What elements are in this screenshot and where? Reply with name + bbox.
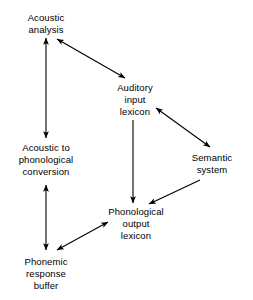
node-label-line: Phonological <box>108 206 164 218</box>
node-label-line: Semantic <box>192 152 232 164</box>
node-label-line: analysis <box>28 24 65 36</box>
node-label-line: buffer <box>24 280 67 292</box>
diagram-canvas: AcousticanalysisAuditoryinputlexiconAcou… <box>0 0 253 300</box>
node-phonological-output-lexicon: Phonologicaloutputlexicon <box>108 206 164 242</box>
node-label-line: system <box>192 164 232 176</box>
node-label-line: lexicon <box>108 230 164 242</box>
arrow-auditory-input-lexicon--semantic-system <box>156 108 210 147</box>
node-label-line: lexicon <box>117 106 153 118</box>
node-label-line: input <box>117 94 153 106</box>
node-label-line: Acoustic <box>28 12 65 24</box>
node-label-line: phonological <box>19 154 74 166</box>
arrow-acoustic-analysis--auditory-input-lexicon <box>57 39 125 78</box>
node-label-line: Phonemic <box>24 256 67 268</box>
node-label-line: output <box>108 218 164 230</box>
node-acoustic-analysis: Acousticanalysis <box>28 12 65 36</box>
node-label-line: Auditory <box>117 82 153 94</box>
arrow-phonemic-response-buffer--phonological-output-lexicon <box>57 222 108 250</box>
node-semantic-system: Semanticsystem <box>192 152 232 176</box>
node-label-line: response <box>24 268 67 280</box>
node-acoustic-to-phonological-conversion: Acoustic tophonologicalconversion <box>19 142 74 178</box>
arrow-semantic-system--phonological-output-lexicon <box>149 180 200 204</box>
node-auditory-input-lexicon: Auditoryinputlexicon <box>117 82 153 118</box>
node-label-line: conversion <box>19 166 74 178</box>
node-label-line: Acoustic to <box>19 142 74 154</box>
node-phonemic-response-buffer: Phonemicresponsebuffer <box>24 256 67 292</box>
